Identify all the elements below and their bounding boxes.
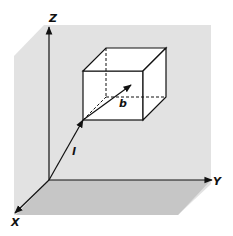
- z-axis-label: Z: [48, 12, 58, 25]
- vector-b-label: b: [119, 97, 127, 110]
- vector-diagram: Z Y X l b: [0, 0, 233, 236]
- x-axis-label: X: [10, 216, 20, 229]
- vector-l-label: l: [72, 145, 76, 158]
- cube-front-face: [83, 71, 143, 120]
- floor-plane: [16, 180, 211, 215]
- y-axis-label: Y: [213, 175, 222, 188]
